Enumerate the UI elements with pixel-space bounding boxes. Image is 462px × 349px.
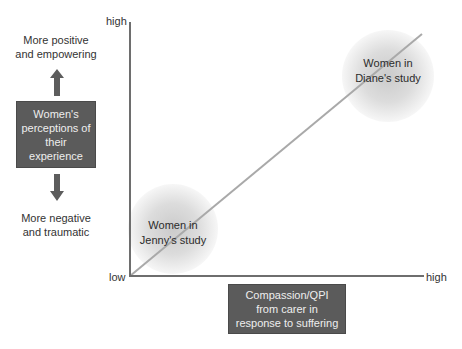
x-axis-high-label: high — [426, 271, 447, 283]
perceptions-line-1: Women's — [33, 107, 78, 121]
positive-label-line-1: More positive — [10, 33, 102, 47]
perceptions-box: Women's perceptions of their experience — [16, 101, 96, 168]
perceptions-line-3: their — [45, 135, 66, 149]
positive-label-line-2: and empowering — [10, 47, 102, 61]
jenny-study-label: Women in Jenny's study — [130, 218, 216, 248]
compassion-line-2: from carer in — [256, 302, 318, 316]
perceptions-line-4: experience — [29, 149, 83, 163]
compassion-line-1: Compassion/QPI — [245, 288, 328, 302]
negative-label-line-1: More negative — [8, 211, 104, 225]
jenny-study-line-1: Women in — [130, 218, 216, 233]
negative-label-line-2: and traumatic — [8, 225, 104, 239]
y-axis-high-label: high — [106, 15, 127, 27]
positive-label: More positive and empowering — [10, 33, 102, 61]
diane-study-line-1: Women in — [344, 56, 432, 71]
compassion-line-3: response to suffering — [236, 316, 339, 330]
negative-label: More negative and traumatic — [8, 211, 104, 239]
arrow-down-icon — [50, 174, 64, 201]
origin-low-label: low — [109, 271, 126, 283]
perceptions-line-2: perceptions of — [21, 121, 90, 135]
jenny-study-line-2: Jenny's study — [130, 233, 216, 248]
diane-study-label: Women in Diane's study — [344, 56, 432, 86]
diane-study-line-2: Diane's study — [344, 71, 432, 86]
compassion-box: Compassion/QPI from carer in response to… — [228, 284, 346, 334]
